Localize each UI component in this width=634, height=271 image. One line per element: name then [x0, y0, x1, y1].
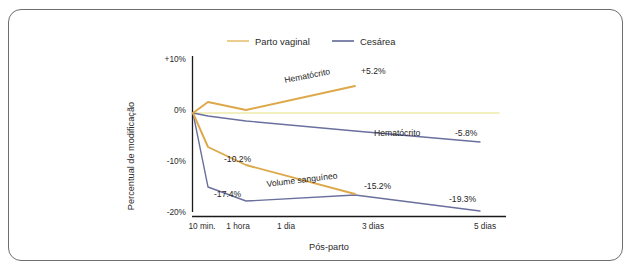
annotation-value-minus-19-3: -19.3%: [449, 194, 477, 204]
y-tick-plus10: +10%: [165, 54, 187, 64]
annotation-value-minus-17-4: -17.4%: [214, 189, 242, 199]
annotation-value-minus-5-8: -5.8%: [455, 128, 478, 138]
chart-card: Parto vaginal Cesárea Percentual de modi…: [8, 9, 623, 261]
x-axis-title: Pós-parto: [309, 242, 349, 252]
legend-label-parto-vaginal: Parto vaginal: [255, 36, 310, 47]
x-tick-1dia: 1 dia: [277, 221, 295, 231]
y-tick-zero: 0%: [174, 105, 187, 115]
y-axis-title: Percentual de modificação: [126, 102, 136, 210]
y-tick-minus20: -20%: [167, 207, 187, 217]
x-tick-3dias: 3 dias: [362, 221, 384, 231]
annotation-hematocrito-mid: Hematócrito: [374, 128, 421, 138]
x-axis-ticks: 10 min. 1 hora 1 dia 3 dias 5 dias: [188, 221, 496, 231]
annotation-value-minus-10-2: -10.2%: [224, 154, 252, 164]
series-line-hematocrito-cesarea: [193, 113, 480, 142]
line-chart: Parto vaginal Cesárea Percentual de modi…: [9, 10, 622, 260]
series-line-hematocrito-parto-vaginal: [193, 86, 355, 113]
legend-label-cesarea: Cesárea: [360, 36, 396, 47]
annotation-hematocrito-top: Hematócrito: [283, 66, 331, 85]
y-tick-minus10: -10%: [167, 156, 187, 166]
x-tick-1hora: 1 hora: [226, 221, 250, 231]
chart-legend: Parto vaginal Cesárea: [227, 36, 396, 47]
x-tick-5dias: 5 dias: [474, 221, 496, 231]
annotation-value-plus-5-2: +5.2%: [361, 66, 386, 76]
x-tick-10min: 10 min.: [188, 221, 215, 231]
y-axis-ticks: +10% 0% -10% -20%: [165, 54, 187, 217]
annotation-value-minus-15-2: -15.2%: [364, 181, 392, 191]
